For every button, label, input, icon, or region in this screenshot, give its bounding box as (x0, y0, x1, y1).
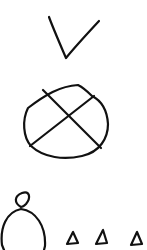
figure-icon (2, 192, 45, 250)
crossed-circle-icon (24, 85, 108, 158)
triangle-icon (96, 230, 107, 244)
triangle-icon (67, 232, 78, 244)
triangle-icon (131, 232, 142, 245)
checkmark-icon (49, 17, 99, 58)
triangle-icons (67, 230, 142, 245)
sketch-canvas (0, 0, 147, 250)
sketch-svg (0, 0, 147, 250)
